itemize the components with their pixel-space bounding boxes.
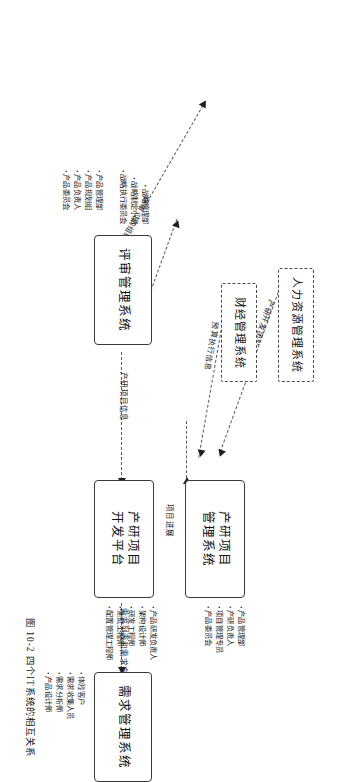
role-item: 产品委员会: [60, 170, 71, 210]
role-item: 战略执行委员会: [117, 170, 128, 225]
role-item: 产品负责人: [71, 170, 82, 210]
node-pm-system-title-line2: 管理系统: [201, 511, 215, 567]
role-item: 需求收集人员: [64, 672, 75, 719]
roles-pm-system: 产品管理部 产研负责人 项目管理专员 产品委员会: [202, 606, 246, 653]
arrowhead-hr-to-pm: [216, 449, 226, 458]
node-pm-system-title-line1: 产研项目: [217, 511, 231, 567]
node-dev-platform-title-line2: 开发平台: [110, 511, 124, 567]
arrowhead-finance-to-pm: [196, 449, 205, 457]
edge-label-review-to-pm: 产研项目信息: [119, 372, 130, 422]
node-review-system[interactable]: 评审管理系统: [94, 235, 152, 345]
role-item: 体验客户: [75, 672, 86, 719]
role-item: 测试工程师: [114, 606, 125, 661]
edge-label-devplatform-to-pm: 项目进展: [165, 504, 176, 537]
role-item: 产品委员会: [202, 606, 213, 653]
roles-dev-platform: 产品研发负责人 架构设计师 研发工程师 测试工程师 配置管理工程师: [103, 606, 158, 661]
edge-label-finance-to-pm: 预算执行信息: [202, 321, 221, 372]
role-item: 产研负责人: [224, 606, 235, 653]
edge-devplatform-to-pm: [186, 421, 187, 483]
role-item: 产品设计师: [42, 672, 53, 719]
node-hr-system[interactable]: 人力资源管理系统: [278, 268, 314, 382]
role-item: 产品管理部: [93, 170, 104, 210]
role-item: 项目管理专员: [213, 606, 224, 653]
node-requirement-system-title: 需求管理系统: [115, 685, 131, 769]
role-item: 产品管理部: [235, 606, 246, 653]
node-dev-platform[interactable]: 产研项目 开发平台: [94, 480, 154, 598]
role-item: 战略制定小组: [128, 170, 139, 225]
node-review-system-title: 评审管理系统: [115, 248, 131, 332]
node-finance-system-title: 财经管理系统: [232, 297, 246, 369]
node-dev-platform-title-line1: 产研项目: [126, 511, 140, 567]
role-item: 研发工程师: [125, 606, 136, 661]
role-item: 产品规划组: [82, 170, 93, 210]
role-item: 战略管理部: [139, 170, 150, 225]
role-item: 配置管理工程师: [103, 606, 114, 661]
node-hr-system-title: 人力资源管理系统: [289, 277, 303, 373]
roles-review-system: 战略管理部 战略制定小组 战略执行委员会: [117, 170, 150, 225]
role-item: 产品研发负责人: [147, 606, 158, 661]
node-pm-system[interactable]: 产研项目 管理系统: [185, 480, 245, 598]
role-item: 需求分析师: [53, 672, 64, 719]
roles-product-dept: 产品管理部 产品规划组 产品负责人 产品委员会: [60, 170, 104, 210]
figure-caption: 图 10-2 四个IT系统的相互关系: [24, 618, 38, 757]
node-requirement-system[interactable]: 需求管理系统: [94, 672, 152, 782]
roles-requirement-system: 体验客户 需求收集人员 需求分析师 产品设计师: [42, 672, 86, 719]
role-item: 架构设计师: [136, 606, 147, 661]
edge-review-to-hr: [149, 101, 206, 198]
node-finance-system[interactable]: 财经管理系统: [221, 283, 257, 382]
